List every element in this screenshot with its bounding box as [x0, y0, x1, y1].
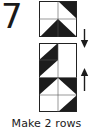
quilt-block-bottom [39, 43, 77, 112]
arrow-up-icon [78, 67, 91, 91]
quilt-block-top-graphic [39, 1, 77, 37]
quilt-block-top [39, 1, 77, 37]
arrow-down-icon [78, 29, 91, 49]
quilt-block-bottom-graphic [39, 43, 77, 112]
instruction-diagram: 7 [0, 0, 93, 134]
arrow-up-glyph [78, 67, 91, 91]
step-number: 7 [1, 0, 35, 36]
arrow-down-glyph [78, 29, 91, 49]
caption-text: Make 2 rows [0, 117, 93, 131]
